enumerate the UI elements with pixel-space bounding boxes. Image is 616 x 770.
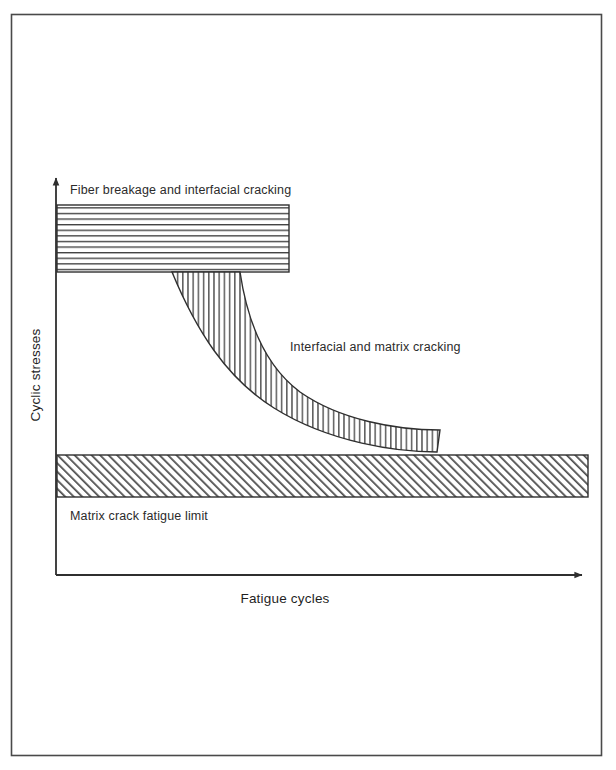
label-interfacial-matrix: Interfacial and matrix cracking <box>290 340 461 354</box>
x-axis-title: Fatigue cycles <box>240 591 329 606</box>
fiber-breakage-band-fill <box>57 205 289 272</box>
interfacial-matrix-band-fill <box>160 260 460 470</box>
page-border <box>12 15 602 756</box>
interfacial-matrix-band <box>160 260 460 470</box>
fatigue-damage-schematic: Fiber breakage and interfacial cracking … <box>0 0 616 770</box>
fiber-breakage-band <box>57 205 289 272</box>
matrix-crack-band-fill <box>57 455 588 497</box>
matrix-crack-fatigue-limit-band <box>57 455 588 497</box>
label-fiber-breakage: Fiber breakage and interfacial cracking <box>70 183 291 197</box>
y-axis-title: Cyclic stresses <box>28 328 43 421</box>
figure-root: Fiber breakage and interfacial cracking … <box>0 0 616 770</box>
label-matrix-crack-fatigue-limit: Matrix crack fatigue limit <box>70 509 208 523</box>
